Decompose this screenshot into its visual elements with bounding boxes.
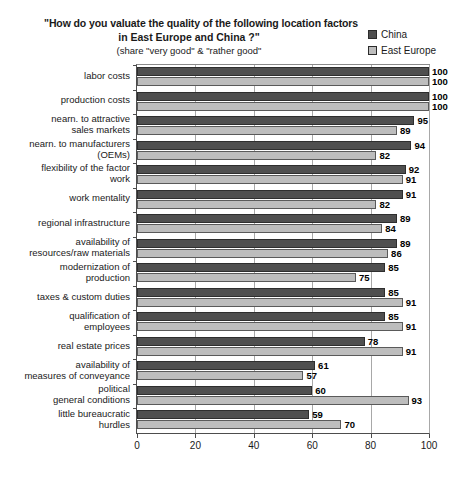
y-axis-label: flexibility of the factor work (0, 162, 130, 184)
bar-china[interactable] (137, 141, 411, 150)
bar-value-label: 61 (318, 361, 329, 370)
x-tick-label: 0 (134, 440, 140, 451)
bar-east[interactable] (137, 273, 356, 282)
bar-value-label: 94 (414, 141, 425, 150)
bar-east[interactable] (137, 420, 341, 429)
x-tick-label: 60 (307, 440, 318, 451)
x-tick-label: 20 (190, 440, 201, 451)
y-tick-mark (133, 163, 137, 164)
y-tick-mark (133, 65, 137, 66)
bar-value-label: 100 (432, 77, 448, 86)
x-axis: 020406080100 (136, 434, 430, 454)
bar-east[interactable] (137, 298, 403, 307)
bar-china[interactable] (137, 312, 385, 321)
bar-value-label: 89 (400, 126, 411, 135)
y-tick-mark (133, 384, 137, 385)
bar-east[interactable] (137, 224, 382, 233)
y-axis-label: nearn. to manufacturers (OEMs) (0, 138, 130, 160)
bar-value-label: 100 (432, 102, 448, 111)
y-axis-label: availability of measures of conveyance (0, 359, 130, 381)
bar-group: 8986 (137, 239, 429, 262)
bar-value-label: 57 (306, 371, 317, 380)
bar-group: 9291 (137, 165, 429, 188)
y-tick-mark (133, 310, 137, 311)
y-axis-label: work mentality (0, 192, 130, 203)
y-tick-mark (133, 261, 137, 262)
bar-value-label: 85 (388, 312, 399, 321)
bar-china[interactable] (137, 386, 312, 395)
bar-value-label: 91 (406, 298, 417, 307)
bar-group: 9482 (137, 141, 429, 164)
bar-china[interactable] (137, 116, 414, 125)
bar-group: 9182 (137, 190, 429, 213)
bar-value-label: 93 (412, 396, 423, 405)
bar-value-label: 91 (406, 347, 417, 356)
x-tick-mark (195, 434, 196, 438)
x-tick-label: 80 (365, 440, 376, 451)
y-tick-mark (133, 139, 137, 140)
bar-east[interactable] (137, 200, 376, 209)
bar-east[interactable] (137, 347, 403, 356)
bar-value-label: 89 (400, 214, 411, 223)
x-tick-mark (254, 434, 255, 438)
y-axis-label: little bureaucratic hurdles (0, 408, 130, 430)
bar-china[interactable] (137, 239, 397, 248)
bar-value-label: 84 (385, 224, 396, 233)
bar-value-label: 82 (379, 200, 390, 209)
bar-east[interactable] (137, 249, 388, 258)
bar-east[interactable] (137, 102, 429, 111)
y-axis-labels: labor costsproduction costsnearn. to att… (0, 64, 130, 434)
bar-china[interactable] (137, 214, 397, 223)
bar-east[interactable] (137, 175, 403, 184)
bar-china[interactable] (137, 67, 429, 76)
y-axis-label: qualification of employees (0, 310, 130, 332)
bar-east[interactable] (137, 151, 376, 160)
bar-value-label: 100 (432, 67, 448, 76)
y-tick-mark (133, 188, 137, 189)
y-tick-mark (133, 90, 137, 91)
bar-east[interactable] (137, 396, 409, 405)
bar-china[interactable] (137, 410, 309, 419)
bar-group: 9589 (137, 116, 429, 139)
bar-group: 6157 (137, 361, 429, 384)
bar-group: 100100 (137, 67, 429, 90)
bar-value-label: 91 (406, 322, 417, 331)
bar-value-label: 78 (368, 337, 379, 346)
y-axis-label: nearn. to attractive sales markets (0, 113, 130, 135)
bar-east[interactable] (137, 371, 303, 380)
bar-group: 5970 (137, 410, 429, 433)
bar-east[interactable] (137, 126, 397, 135)
y-tick-mark (133, 335, 137, 336)
chart-title-line-2: in East Europe and China ?" (44, 30, 334, 44)
legend-swatch-icon (368, 46, 377, 55)
chart-legend: ChinaEast Europe (368, 27, 436, 59)
bar-china[interactable] (137, 288, 385, 297)
bar-china[interactable] (137, 92, 429, 101)
bar-china[interactable] (137, 165, 406, 174)
bar-china[interactable] (137, 263, 385, 272)
bar-china[interactable] (137, 337, 365, 346)
bar-group: 8575 (137, 263, 429, 286)
bar-group: 8984 (137, 214, 429, 237)
bar-value-label: 89 (400, 239, 411, 248)
bar-east[interactable] (137, 322, 403, 331)
bar-value-label: 59 (312, 410, 323, 419)
bar-group: 8591 (137, 312, 429, 335)
y-tick-mark (133, 286, 137, 287)
bar-east[interactable] (137, 77, 429, 86)
legend-item[interactable]: China (368, 27, 436, 41)
y-axis-label: labor costs (0, 70, 130, 81)
bar-value-label: 70 (344, 420, 355, 429)
y-axis-label: political general conditions (0, 383, 130, 405)
legend-item[interactable]: East Europe (368, 43, 436, 57)
y-tick-mark (133, 212, 137, 213)
bar-china[interactable] (137, 361, 315, 370)
bar-china[interactable] (137, 190, 403, 199)
bar-value-label: 86 (391, 249, 402, 258)
bar-group: 8591 (137, 288, 429, 311)
y-axis-label: taxes & custom duties (0, 291, 130, 302)
legend-label: East Europe (381, 45, 436, 56)
chart-subtitle: (share "very good" & "rather good" (44, 44, 334, 57)
legend-swatch-icon (368, 30, 377, 39)
bar-value-label: 85 (388, 288, 399, 297)
